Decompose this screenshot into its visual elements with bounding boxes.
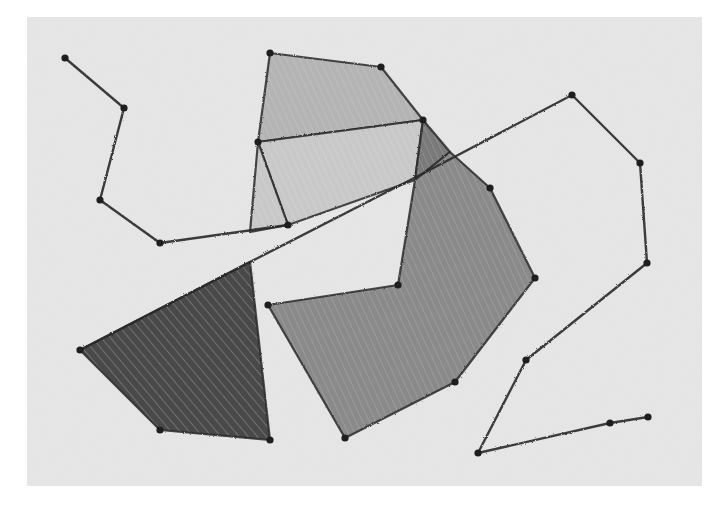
vertex-dot [284, 221, 291, 228]
vertex-dot [156, 239, 163, 246]
vertex-dot [76, 346, 83, 353]
vertex-dot [606, 419, 613, 426]
vertex-dot [451, 378, 458, 385]
vertex-dot [636, 159, 643, 166]
vertex-dot [486, 184, 493, 191]
crayon-drawing [0, 0, 722, 505]
vertex-dot [474, 449, 481, 456]
vertex-dot [522, 356, 529, 363]
vertex-dot [266, 49, 273, 56]
vertex-dot [264, 301, 271, 308]
vertex-dot [643, 259, 650, 266]
vertex-dot [61, 54, 68, 61]
vertex-dot [644, 413, 651, 420]
vertex-dot [120, 104, 127, 111]
vertex-dot [266, 436, 273, 443]
vertex-dot [568, 91, 575, 98]
artwork-canvas: Crayon geometric drawing [0, 0, 722, 505]
vertex-dot [156, 426, 163, 433]
vertex-dot [419, 116, 426, 123]
vertex-dot [377, 63, 384, 70]
vertex-dot [254, 138, 261, 145]
vertex-dot [394, 281, 401, 288]
vertex-dot [96, 196, 103, 203]
vertex-dot [531, 274, 538, 281]
vertex-dot [341, 434, 348, 441]
